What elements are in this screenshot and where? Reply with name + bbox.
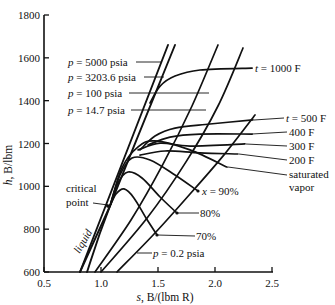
annotation-t400: 400 F <box>252 126 314 138</box>
curve-x-70 <box>110 189 157 235</box>
annotation-x90: x = 90% <box>196 185 238 197</box>
annotation-p5000: p = 5000 psia <box>67 56 162 68</box>
annotation-p100: p = 100 psia <box>67 87 209 99</box>
annotation-p02: p = 0.2 psia <box>137 247 205 259</box>
t500-label: = 500 F <box>289 112 326 124</box>
sat-vapor-leader <box>228 167 287 175</box>
t300-label: 300 F <box>289 140 314 152</box>
y-tick-label: 1800 <box>18 9 41 21</box>
y-tick-label: 1000 <box>18 180 41 192</box>
t500-leader <box>254 118 284 120</box>
y-tick-label: 1200 <box>18 138 41 150</box>
t300-leader <box>246 144 287 146</box>
p100-label: = 100 psia <box>74 87 123 99</box>
curve-x-80 <box>110 172 177 213</box>
svg-text:p = 0.2 psia: p = 0.2 psia <box>152 247 205 259</box>
p5000-label: = 5000 psia <box>74 56 128 68</box>
annotation-t500: t = 500 F <box>254 112 326 124</box>
x80-label: 80% <box>200 207 220 219</box>
annotation-t1000: t = 1000 F <box>255 62 301 74</box>
annotation-x80: 80% <box>175 207 220 219</box>
annotation-t300: 300 F <box>246 140 314 152</box>
t200-leader <box>239 154 287 160</box>
svg-text:t = 500 F: t = 500 F <box>286 112 326 124</box>
svg-text:x = 90%: x = 90% <box>201 185 239 197</box>
axes: 60080010001200140016001800 0.51.01.52.02… <box>18 9 279 289</box>
t1000-label: = 1000 F <box>258 62 301 74</box>
x-tick-label: 1.5 <box>151 277 165 289</box>
annotation-saturated-vapor: saturated vapor <box>228 167 329 193</box>
annotation-p3203: p = 3203.6 psia <box>67 71 164 83</box>
critical-label-2: point <box>66 196 89 208</box>
mollier-chart: 60080010001200140016001800 0.51.01.52.02… <box>0 0 335 305</box>
x70-label: 70% <box>196 230 216 242</box>
y-tick-label: 800 <box>24 223 41 235</box>
x-tick-label: 1.0 <box>94 277 108 289</box>
x70-leader <box>157 235 195 236</box>
x90-marker <box>196 189 199 192</box>
liquid-label: liquid <box>71 226 94 255</box>
annotation-critical-point: critical point <box>66 182 110 208</box>
sat-vapor-label-1: saturated <box>289 168 329 180</box>
y-axis-label: h, B/lbm <box>2 145 15 185</box>
x-tick-label: 2.5 <box>265 277 279 289</box>
t200-label: 200 F <box>289 154 314 166</box>
p3203-label: = 3203.6 psia <box>74 71 137 83</box>
x-axis-label: s, B/(lbm R) <box>136 291 193 304</box>
p02-label: = 0.2 psia <box>159 247 205 259</box>
annotation-p14: p = 14.7 psia <box>67 104 206 116</box>
svg-text:p = 5000 psia: p = 5000 psia <box>67 56 128 68</box>
annotation-t200: 200 F <box>239 154 314 166</box>
x-tick-label: 2.0 <box>208 277 222 289</box>
t400-leader <box>252 132 287 134</box>
svg-text:p = 3203.6 psia: p = 3203.6 psia <box>67 71 136 83</box>
svg-text:p = 100 psia: p = 100 psia <box>67 87 122 99</box>
y-tick-label: 1400 <box>18 95 41 107</box>
annotation-x70: 70% <box>155 230 216 242</box>
sat-vapor-label-2: vapor <box>289 181 314 193</box>
p14-label: = 14.7 psia <box>74 104 126 116</box>
x-axis-unit: , B/(lbm R) <box>141 291 194 304</box>
y-axis-unit: , B/lbm <box>2 145 15 180</box>
y-tick-label: 1600 <box>18 52 41 64</box>
critical-point-marker <box>106 204 110 208</box>
x90-label: = 90% <box>207 185 239 197</box>
x-ticks: 0.51.01.52.02.5 <box>37 267 279 289</box>
x-tick-label: 0.5 <box>37 277 51 289</box>
svg-text:p = 14.7 psia: p = 14.7 psia <box>67 104 125 116</box>
t400-label: 400 F <box>289 126 314 138</box>
critical-label-1: critical <box>66 182 97 194</box>
